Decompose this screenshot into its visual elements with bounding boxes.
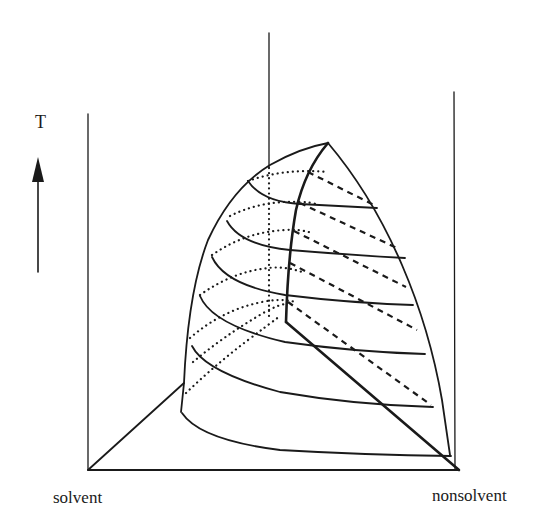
nonsolvent-corner-label: nonsolvent [432, 487, 507, 504]
solid-isotherms [182, 181, 451, 456]
phase-diagram [0, 0, 553, 531]
temperature-axis-label: T [35, 113, 46, 131]
binary-edge-diagonal [286, 322, 459, 470]
right-vertical-axis [454, 92, 455, 469]
solvent-corner-label: solvent [53, 489, 102, 506]
arrow-up-icon [32, 157, 44, 182]
temperature-arrow [32, 157, 44, 272]
base-left-edge [88, 383, 184, 470]
frame [88, 33, 459, 470]
